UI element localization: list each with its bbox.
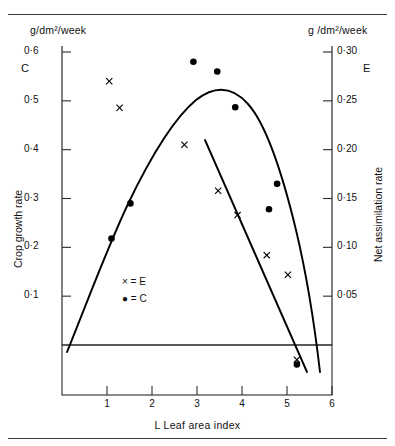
data-point-e-5: [264, 252, 270, 258]
data-points: [106, 58, 300, 367]
data-point-c-6: [266, 206, 273, 213]
ytick-label-right-2: 0·15: [337, 192, 357, 203]
data-point-c-2: [190, 58, 197, 65]
ytick-label-right-5: 0·30: [337, 45, 357, 56]
ytick-label-right-0: 0·05: [337, 289, 357, 300]
curve-crop-growth-rate: [67, 90, 320, 372]
data-point-e-6: [285, 272, 291, 278]
fitted-curves: [67, 90, 320, 372]
data-point-e-1: [117, 105, 123, 111]
ytick-label-left-3: 0·4: [24, 143, 38, 154]
xtick-label-2: 3: [187, 398, 207, 409]
ytick-label-left-1: 0·2: [24, 240, 38, 251]
xtick-label-3: 4: [232, 398, 252, 409]
data-point-c-4: [232, 104, 239, 111]
data-point-e-3: [215, 188, 221, 194]
xtick-label-4: 5: [277, 398, 297, 409]
plot-canvas: [0, 0, 395, 446]
ytick-label-left-2: 0·3: [24, 192, 38, 203]
ytick-label-right-1: 0·10: [337, 240, 357, 251]
xtick-label-1: 2: [142, 398, 162, 409]
data-point-c-3: [214, 68, 221, 75]
ytick-label-left-5: 0·6: [24, 45, 38, 56]
ytick-label-left-4: 0·5: [24, 94, 38, 105]
ytick-label-right-3: 0·20: [337, 143, 357, 154]
data-point-c-5: [274, 181, 281, 188]
data-point-c-0: [108, 235, 115, 242]
data-point-e-2: [181, 142, 187, 148]
xtick-label-5: 6: [322, 398, 342, 409]
ytick-label-left-0: 0·1: [24, 289, 38, 300]
axis-tick-marks: [62, 52, 332, 395]
ytick-label-right-4: 0·25: [337, 94, 357, 105]
data-point-c-1: [127, 200, 134, 207]
data-point-e-0: [106, 78, 112, 84]
xtick-label-0: 1: [97, 398, 117, 409]
line-net-assimilation-rate: [205, 140, 307, 372]
